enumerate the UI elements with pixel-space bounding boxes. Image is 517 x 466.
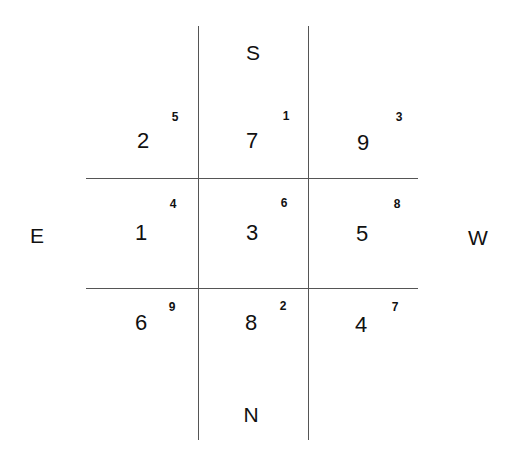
grid-line-vertical-right <box>308 26 309 440</box>
grid-line-horizontal-top <box>86 178 418 179</box>
cell-r2c2-main: 3 <box>246 222 258 244</box>
direction-label-right: W <box>468 227 488 248</box>
cell-r3c3-sup: 7 <box>392 301 399 313</box>
cell-r2c1-main: 1 <box>135 222 147 244</box>
cell-r3c1-main: 6 <box>135 312 147 334</box>
cell-r1c3-main: 9 <box>357 132 369 154</box>
cell-r1c2-sup: 1 <box>283 110 290 122</box>
grid-line-vertical-left <box>198 26 199 440</box>
cell-r2c3-main: 5 <box>356 223 368 245</box>
cell-r1c1-main: 2 <box>137 130 149 152</box>
cell-r2c3-sup: 8 <box>394 198 401 210</box>
cell-r2c1-sup: 4 <box>170 198 177 210</box>
cell-r3c3-main: 4 <box>355 314 367 336</box>
cell-r3c2-main: 8 <box>245 312 257 334</box>
direction-label-left: E <box>30 225 44 246</box>
grid-line-horizontal-bottom <box>86 288 418 289</box>
cell-r3c1-sup: 9 <box>169 301 176 313</box>
direction-label-top: S <box>246 42 260 63</box>
cell-r2c2-sup: 6 <box>281 197 288 209</box>
cell-r1c2-main: 7 <box>246 130 258 152</box>
direction-label-bottom: N <box>243 404 258 425</box>
cell-r1c3-sup: 3 <box>396 111 403 123</box>
cell-r3c2-sup: 2 <box>280 300 287 312</box>
cell-r1c1-sup: 5 <box>172 111 179 123</box>
